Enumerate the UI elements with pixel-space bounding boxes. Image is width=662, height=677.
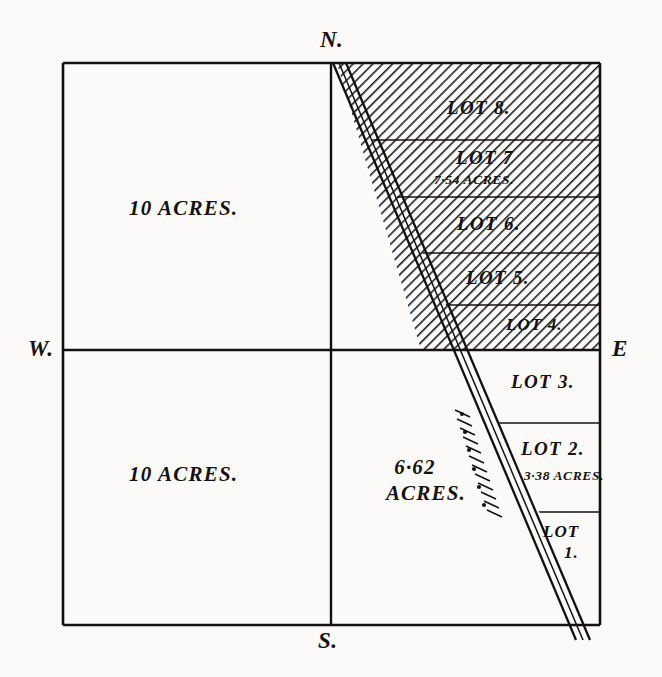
lot-label-8: LOT 8. bbox=[447, 97, 511, 119]
parcel-acres-value: 6·62 bbox=[360, 455, 470, 481]
lot-label-6: LOT 6. bbox=[457, 213, 521, 235]
lot-label-3: LOT 3. bbox=[511, 371, 575, 393]
lot-acres-2: 3·38 ACRES. bbox=[524, 468, 604, 484]
parcel-acres-unit: ACRES. bbox=[360, 481, 470, 507]
lot-label-5: LOT 5. bbox=[466, 267, 530, 289]
compass-south-label: S. bbox=[318, 628, 338, 654]
compass-west-label: W. bbox=[28, 336, 54, 362]
lot-label-1: LOT 1. bbox=[543, 522, 579, 563]
plat-drawing-canvas bbox=[0, 0, 662, 677]
lot-acres-7: 7·54 ACRES. bbox=[434, 172, 514, 188]
lot-label-4: LOT 4. bbox=[506, 315, 563, 335]
parcel-label-sc-quadrant: 6·62 ACRES. bbox=[360, 455, 470, 506]
parcel-label-nw-quadrant: 10 ACRES. bbox=[129, 196, 238, 221]
parcel-label-sw-quadrant: 10 ACRES. bbox=[129, 462, 238, 487]
lot-label-2: LOT 2. bbox=[521, 438, 585, 460]
compass-east-label: E bbox=[612, 336, 628, 362]
compass-north-label: N. bbox=[320, 27, 343, 53]
lot-label-1-line2: 1. bbox=[543, 543, 579, 564]
lot-label-1-line1: LOT bbox=[543, 522, 579, 543]
plat-diagram: N. S. E W. 10 ACRES. 10 ACRES. 6·62 ACRE… bbox=[0, 0, 662, 677]
lot-label-7: LOT 7 bbox=[456, 147, 514, 169]
